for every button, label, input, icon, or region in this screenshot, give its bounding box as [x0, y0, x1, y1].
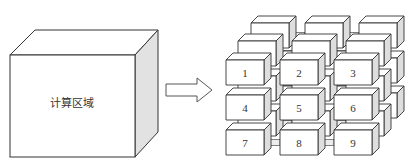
subdomain-cube-grid: 123456789: [226, 16, 404, 155]
cube-top-face: [280, 53, 325, 60]
cube-top-face: [226, 53, 271, 60]
subdomain-cube-8: 8: [280, 123, 325, 155]
subdomain-cube-5: 5: [280, 88, 325, 120]
cube-top-face: [280, 123, 325, 130]
subdomain-number: 5: [296, 102, 302, 114]
cube-top-face: [346, 34, 391, 41]
subdomain-number: 8: [296, 137, 302, 149]
subdomain-cube-2: 2: [280, 53, 325, 85]
subdomain-cube-4: 4: [226, 88, 271, 120]
subdomain-number: 4: [242, 102, 248, 114]
cube-top-face: [334, 53, 379, 60]
subdomain-number: 2: [296, 67, 302, 79]
cube-top-face: [334, 88, 379, 95]
cube-top-face: [292, 34, 337, 41]
domain-decomposition-diagram: 计算区域 123456789: [0, 0, 413, 167]
subdomain-cube-7: 7: [226, 123, 271, 155]
subdomain-number: 3: [350, 67, 356, 79]
cube-top-face: [305, 16, 350, 23]
cube-top-face: [334, 123, 379, 130]
cube-top-face: [359, 16, 404, 23]
subdomain-cube-1: 1: [226, 53, 271, 85]
subdomain-number: 7: [242, 137, 248, 149]
subdomain-cube-3: 3: [334, 53, 379, 85]
computation-domain-cube: 计算区域: [10, 30, 158, 157]
subdomain-cube-6: 6: [334, 88, 379, 120]
subdomain-number: 6: [350, 102, 356, 114]
cube-top-face: [226, 88, 271, 95]
cube-top-face: [280, 88, 325, 95]
subdomain-number: 9: [350, 137, 356, 149]
cube-top-face: [226, 123, 271, 130]
computation-domain-label: 计算区域: [50, 96, 94, 110]
subdomain-cube-9: 9: [334, 123, 379, 155]
cube-top-face: [251, 16, 296, 23]
right-arrow-icon: [166, 78, 212, 102]
subdomain-number: 1: [242, 67, 248, 79]
cube-top-face: [238, 34, 283, 41]
cube-top-face: [10, 30, 158, 55]
